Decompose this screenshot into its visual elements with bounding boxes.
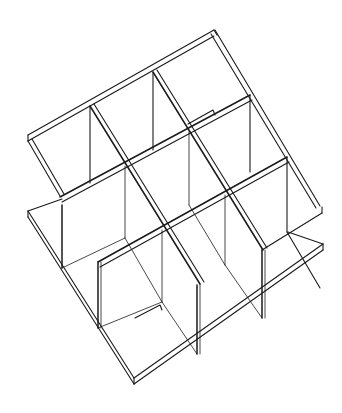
floor-line-6 (189, 205, 225, 265)
bottom-panel (28, 199, 323, 384)
floor-line-5 (125, 238, 162, 302)
bottom-panel-right-edge-diag (287, 232, 320, 288)
top-panel-front-right (262, 213, 322, 250)
column-divider-2 (153, 72, 263, 250)
floor-line-2 (98, 302, 162, 328)
top-panel-back-edge (28, 30, 214, 135)
top-panel-left-edge-inner (32, 139, 64, 194)
top-panel-left-edge (28, 141, 60, 196)
bottom-panel-left-edge-thickness (28, 217, 134, 384)
top-panel-right-edge (215, 30, 320, 206)
top-panel (28, 30, 320, 208)
bottom-panel-back-left (28, 199, 62, 211)
bottom-panel-left-edge (28, 211, 134, 378)
row-dividers (60, 95, 289, 318)
row-divider-2 (98, 157, 287, 262)
shelf-grid-drawing (0, 0, 342, 413)
drawing-canvas (0, 0, 342, 413)
